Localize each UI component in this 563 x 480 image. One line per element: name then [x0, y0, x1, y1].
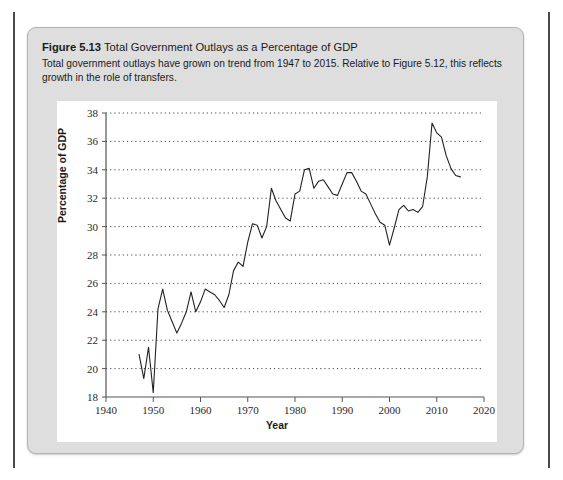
figure-number: Figure 5.13	[42, 41, 101, 53]
chart-plot-panel: Percentage of GDP 1820222426283032343638…	[57, 101, 497, 442]
y-tick-label: 20	[87, 363, 99, 375]
y-tick-label: 36	[87, 135, 99, 147]
y-tick-label: 28	[87, 249, 99, 261]
figure-box: Figure 5.13 Total Government Outlays as …	[27, 27, 524, 454]
x-tick-label: 1990	[331, 404, 354, 416]
x-tick-label: 1960	[190, 404, 213, 416]
y-tick-label: 32	[87, 192, 98, 204]
y-tick-label: 18	[87, 391, 99, 403]
figure-inner: Figure 5.13 Total Government Outlays as …	[28, 28, 523, 453]
page-title: Total Government Outlays as a Percentage…	[104, 41, 358, 53]
y-tick-label: 24	[87, 306, 99, 318]
y-tick-label: 38	[87, 107, 99, 119]
y-tick-label: 30	[87, 221, 99, 233]
figure-caption: Figure 5.13 Total Government Outlays as …	[42, 40, 512, 84]
page-rule-left	[13, 12, 15, 468]
figure-description: Total government outlays have grown on t…	[42, 57, 512, 84]
data-series-line	[139, 123, 460, 393]
x-tick-label: 1980	[284, 404, 307, 416]
line-chart: 1820222426283032343638194019501960197019…	[57, 101, 497, 442]
y-tick-label: 34	[87, 164, 99, 176]
x-tick-label: 1950	[142, 404, 165, 416]
y-tick-label: 22	[87, 334, 98, 346]
x-tick-label: 2020	[473, 404, 496, 416]
x-tick-label: 2010	[426, 404, 449, 416]
x-tick-label: 2000	[379, 404, 402, 416]
x-tick-label: 1970	[237, 404, 260, 416]
x-tick-label: 1940	[95, 404, 118, 416]
x-axis-title: Year	[57, 419, 497, 431]
figure-title-line: Figure 5.13 Total Government Outlays as …	[42, 40, 512, 55]
y-tick-label: 26	[87, 277, 99, 289]
page-rule-right	[548, 12, 550, 468]
